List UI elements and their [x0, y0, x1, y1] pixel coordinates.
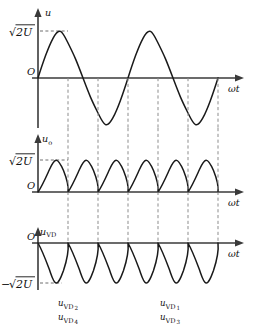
waveform-figure: u O √ 2U ωt	[0, 0, 255, 334]
annotation-u-vd3-sub-main: VD	[165, 317, 176, 325]
y-axis-label-3-base: u	[40, 226, 46, 237]
amplitude-value-2: 2U	[15, 155, 33, 168]
y-axis-label-2: u o	[42, 133, 52, 147]
y-axis-label-3-sub: VD	[45, 231, 56, 239]
annotation-u-vd1: u VD 1	[160, 298, 180, 311]
amplitude-label-1: √ 2U	[9, 25, 35, 39]
x-axis-label-1: ωt	[228, 83, 240, 94]
origin-label-2: O	[27, 180, 35, 191]
x-axis-arrow-1	[235, 74, 244, 81]
annotation-u-vd4: u VD 4	[58, 312, 79, 325]
annotation-u-vd3-sub-index: 3	[177, 319, 181, 325]
plot-source-voltage: u O √ 2U ωt	[9, 7, 244, 128]
annotation-left-group: u VD 2 u VD 4	[58, 298, 79, 325]
annotation-u-vd2: u VD 2	[58, 298, 79, 311]
y-axis-arrow-1	[34, 8, 41, 17]
annotation-u-vd1-sub-main: VD	[165, 303, 176, 311]
annotation-u-vd1-sub-index: 1	[177, 305, 181, 311]
y-axis-label-2-base: u	[42, 133, 48, 144]
amplitude-value-3: 2U	[15, 278, 33, 291]
annotation-u-vd4-sub-index: 4	[75, 319, 79, 325]
amplitude-label-3: − √ 2U	[1, 277, 35, 291]
waveform-diagram: u O √ 2U ωt	[0, 0, 255, 334]
annotation-u-vd2-sub-main: VD	[63, 303, 74, 311]
annotation-right-group: u VD 1 u VD 3	[160, 298, 181, 325]
amplitude-value-1: 2U	[15, 26, 33, 39]
annotation-u-vd4-sub-main: VD	[63, 317, 74, 325]
plot-output-voltage: u o O √ 2U ωt	[9, 128, 244, 226]
x-axis-arrow-3	[235, 239, 244, 246]
x-axis-label-2: ωt	[228, 197, 240, 208]
annotation-u-vd3: u VD 3	[160, 312, 181, 325]
curve-diode-voltage	[38, 243, 218, 283]
origin-label-3: O	[27, 231, 35, 242]
x-axis-arrow-2	[235, 188, 244, 195]
y-axis-label-3: u VD	[40, 226, 56, 239]
origin-label-1: O	[27, 66, 35, 77]
plot-diode-voltage: u VD O − √ 2U ωt	[1, 226, 244, 291]
annotation-u-vd2-sub-index: 2	[75, 305, 79, 311]
y-axis-arrow-2	[34, 134, 41, 143]
amplitude-label-2: √ 2U	[9, 154, 35, 168]
x-axis-label-3: ωt	[228, 248, 240, 259]
y-axis-label-1: u	[45, 7, 51, 18]
y-axis-label-2-sub: o	[48, 139, 52, 147]
